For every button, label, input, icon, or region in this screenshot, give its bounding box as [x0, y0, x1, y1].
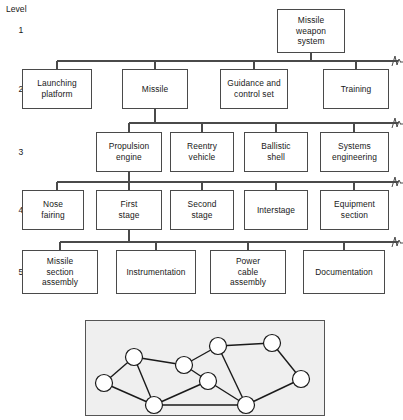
graph-node: [238, 397, 255, 414]
graph-node: [126, 349, 143, 366]
wbs-box-first-stage: Firststage: [96, 190, 162, 230]
graph-edge: [246, 379, 301, 405]
wbs-box-documentation: Documentation: [303, 250, 385, 294]
wbs-box-instrumentation: Instrumentation: [116, 250, 196, 294]
wbs-box-systems-engineering: Systemsengineering: [320, 132, 389, 172]
graph-node: [200, 373, 217, 390]
network-graph: [86, 321, 325, 416]
wbs-box-label: Powercableassembly: [230, 256, 266, 288]
wbs-box-label: Instrumentation: [126, 267, 185, 278]
graph-node: [176, 357, 193, 374]
level-number-1: 1: [14, 25, 28, 35]
wbs-box-interstage: Interstage: [244, 190, 308, 230]
wbs-box-guidance-and-control-set: Guidance andcontrol set: [220, 69, 288, 109]
wbs-box-label: Firststage: [119, 199, 140, 221]
wbs-box-label: Secondstage: [187, 199, 216, 221]
wbs-box-label: Missileweaponsystem: [296, 15, 326, 47]
wbs-box-power-cable-assembly: Powercableassembly: [210, 250, 286, 294]
graph-node: [293, 371, 310, 388]
wbs-box-label: Nosefairing: [41, 199, 65, 221]
wbs-box-label: Systemsengineering: [332, 141, 377, 163]
wbs-box-training: Training: [323, 69, 389, 109]
wbs-box-missile-weapon-system: Missileweaponsystem: [277, 9, 345, 53]
level-number-3: 3: [14, 147, 28, 157]
wbs-box-label: Propulsionengine: [109, 141, 150, 163]
wbs-box-label: Missilesectionassembly: [42, 256, 78, 288]
wbs-box-label: Reentryvehicle: [187, 141, 217, 163]
wbs-box-ballistic-shell: Ballisticshell: [244, 132, 308, 172]
wbs-box-label: Launchingplatform: [37, 78, 77, 100]
wbs-box-missile-section-assembly: Missilesectionassembly: [22, 250, 98, 294]
graph-node: [264, 335, 281, 352]
wbs-box-label: Ballisticshell: [261, 141, 290, 163]
level-heading: Level: [6, 4, 27, 14]
network-graph-panel: [85, 320, 325, 416]
wbs-box-label: Guidance andcontrol set: [227, 78, 280, 100]
wbs-box-launching-platform: Launchingplatform: [22, 69, 92, 109]
wbs-box-label: Missile: [142, 84, 168, 95]
graph-node: [96, 375, 113, 392]
wbs-box-equipment-section: Equipmentsection: [320, 190, 389, 230]
graph-node: [210, 338, 227, 355]
wbs-box-label: Documentation: [315, 267, 373, 278]
graph-node: [146, 397, 163, 414]
wbs-box-reentry-vehicle: Reentryvehicle: [170, 132, 234, 172]
wbs-box-missile: Missile: [122, 69, 188, 109]
wbs-box-label: Training: [341, 84, 372, 95]
wbs-box-propulsion-engine: Propulsionengine: [96, 132, 162, 172]
wbs-box-second-stage: Secondstage: [170, 190, 234, 230]
wbs-box-nose-fairing: Nosefairing: [22, 190, 84, 230]
wbs-box-label: Equipmentsection: [334, 199, 375, 221]
wbs-box-label: Interstage: [257, 205, 295, 216]
